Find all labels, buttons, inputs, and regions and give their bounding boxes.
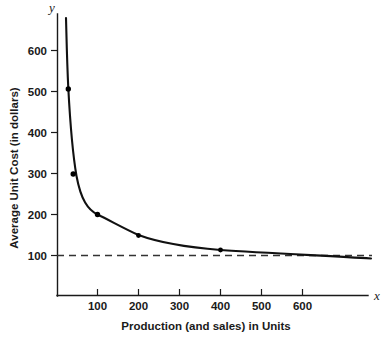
- x-tick-label-400: 400: [211, 300, 230, 312]
- x-tick-label-200: 200: [129, 300, 148, 312]
- y-tick-label-300: 300: [28, 168, 47, 180]
- x-tick-label-100: 100: [88, 300, 107, 312]
- chart-plot-area: 600 500 400 300 200 100 100 200 300 400 …: [0, 0, 385, 347]
- y-tick-label-400: 400: [28, 127, 47, 139]
- x-axis-title: Production (and sales) in Units: [121, 320, 290, 332]
- average-unit-cost-curve: [66, 18, 371, 259]
- y-axis-title: Average Unit Cost (in dollars): [8, 87, 20, 248]
- data-point-20-500: [66, 86, 71, 91]
- data-point-33-300: [71, 171, 76, 176]
- x-tick-label-300: 300: [170, 300, 189, 312]
- y-axis-symbol-label: y: [47, 0, 55, 15]
- y-tick-label-200: 200: [28, 209, 47, 221]
- data-point-200-150: [136, 233, 141, 238]
- data-point-100-200: [95, 212, 100, 217]
- data-point-markers: [66, 86, 223, 252]
- x-axis-symbol-label: x: [373, 288, 380, 303]
- y-tick-label-100: 100: [28, 250, 47, 262]
- y-tick-label-600: 600: [28, 45, 47, 57]
- data-point-400-125: [218, 248, 223, 253]
- y-tick-label-500: 500: [28, 86, 47, 98]
- x-tick-label-600: 600: [293, 300, 312, 312]
- x-tick-label-500: 500: [252, 300, 271, 312]
- chart-figure: 600 500 400 300 200 100 100 200 300 400 …: [0, 0, 385, 347]
